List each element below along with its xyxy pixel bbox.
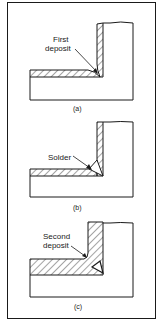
leader-line [71,246,85,256]
panel-c: Second deposit (c) [30,222,133,311]
arrow-head [82,253,87,258]
solder-joint-diagram: First deposit (a) Solder (b) Second depo… [0,0,160,328]
panel-caption: (b) [73,204,82,212]
callout-label-line-2: deposit [43,241,70,250]
callout-label-line-1: First [53,35,69,44]
panel-a: First deposit (a) [30,22,133,113]
panel-b: Solder (b) [30,122,133,213]
base-block [30,122,133,198]
leader-line [75,49,97,72]
panel-caption: (c) [74,303,82,311]
base-block [30,22,133,100]
panel-caption: (a) [73,105,82,113]
horizontal-coating [30,70,100,77]
callout-label-line-1: Second [43,232,70,241]
vertical-coating [97,23,103,77]
callout-label-line-2: deposit [45,44,72,53]
callout-label: Solder [48,153,71,162]
horizontal-coating [30,169,97,176]
